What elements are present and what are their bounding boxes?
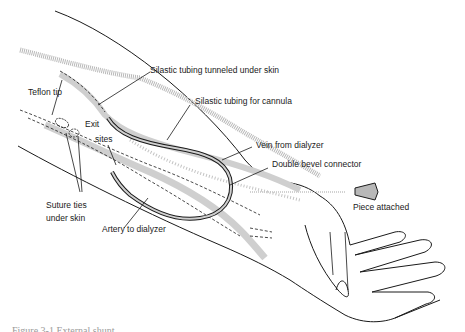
label-double-bevel-connector: Double bevel connector	[272, 160, 361, 170]
label-silastic-cannula: Silastic tubing for cannula	[195, 97, 292, 107]
label-sites: sites	[95, 135, 112, 145]
hand-thumb	[305, 225, 348, 297]
label-piece-attached: Piece attached	[353, 203, 409, 213]
hand-finger-4	[372, 292, 435, 318]
arm-illustration	[0, 0, 465, 332]
hand-finger-3	[360, 262, 445, 292]
leader-tunneled	[98, 72, 150, 105]
label-silastic-tunneled: Silastic tubing tunneled under skin	[150, 66, 279, 76]
piece-attached-shape	[355, 183, 378, 200]
figure-caption-partial: Figure 3-1 External shunt ...	[12, 326, 124, 332]
label-vein-from-dialyzer: Vein from dialyzer	[256, 141, 324, 151]
label-teflon-tip: Teflon tip	[28, 88, 62, 98]
label-artery-to-dialyzer: Artery to dialyzer	[102, 225, 166, 235]
label-exit: Exit	[85, 120, 99, 130]
label-under-skin: under skin	[46, 214, 85, 224]
leader-cannula	[167, 105, 190, 140]
label-suture-ties: Suture ties	[46, 201, 87, 211]
figure-canvas: Silastic tubing tunneled under skin Tefl…	[0, 0, 465, 332]
